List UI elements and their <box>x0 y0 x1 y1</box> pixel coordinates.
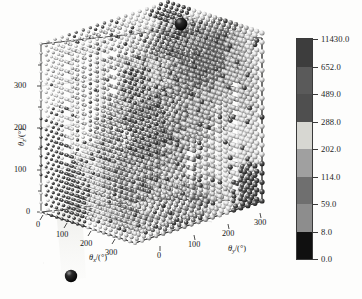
scatter-sphere <box>259 58 264 63</box>
scatter-sphere <box>172 81 176 85</box>
scatter-sphere <box>132 171 136 175</box>
scatter-sphere <box>135 135 139 139</box>
scatter-sphere <box>78 218 82 222</box>
scatter-sphere <box>159 16 163 20</box>
scatter-sphere <box>154 52 158 56</box>
scatter-sphere <box>139 159 143 163</box>
scatter-sphere <box>170 57 174 61</box>
scatter-sphere <box>217 194 222 199</box>
scatter-sphere <box>60 68 63 71</box>
scatter-sphere <box>129 16 133 20</box>
scatter-sphere <box>76 73 79 76</box>
scatter-sphere <box>161 138 165 142</box>
scatter-sphere <box>228 81 233 86</box>
scatter-sphere <box>111 43 115 47</box>
scatter-sphere <box>147 134 151 138</box>
scatter-sphere <box>102 35 106 39</box>
scatter-sphere <box>166 14 170 18</box>
scatter-sphere <box>210 131 215 136</box>
scatter-sphere <box>168 201 172 205</box>
scatter-sphere <box>168 127 172 131</box>
scatter-sphere <box>223 103 228 108</box>
scatter-sphere <box>97 159 101 163</box>
scatter-sphere <box>107 167 111 171</box>
scatter-sphere <box>118 50 122 54</box>
scatter-sphere <box>45 138 48 141</box>
scatter-sphere <box>119 213 123 217</box>
scatter-sphere <box>55 94 58 97</box>
scatter-sphere <box>123 70 127 74</box>
scatter-sphere <box>259 49 264 54</box>
scatter-sphere <box>223 187 228 192</box>
scatter-sphere <box>168 192 172 196</box>
scatter-sphere <box>175 180 179 184</box>
colorbar-band <box>297 94 312 122</box>
scatter-sphere <box>167 187 171 191</box>
scatter-sphere <box>168 131 172 135</box>
scatter-sphere <box>127 160 131 164</box>
scatter-sphere <box>205 120 210 125</box>
scatter-sphere <box>123 79 127 83</box>
scatter-sphere <box>101 142 105 146</box>
scatter-sphere <box>259 152 264 157</box>
scatter-sphere <box>154 66 158 70</box>
scatter-sphere <box>133 166 137 170</box>
scatter-sphere <box>128 57 132 61</box>
scatter-sphere <box>190 26 194 30</box>
scatter-sphere <box>137 74 141 78</box>
scatter-sphere <box>137 37 141 41</box>
scatter-sphere <box>50 214 53 217</box>
scatter-sphere <box>204 157 209 162</box>
scatter-sphere <box>71 90 74 93</box>
scatter-sphere <box>147 162 151 166</box>
scatter-sphere <box>154 206 158 210</box>
scatter-sphere <box>101 114 105 118</box>
scatter-sphere <box>182 196 187 201</box>
scatter-sphere <box>141 15 145 19</box>
scatter-sphere <box>154 173 158 177</box>
scatter-sphere <box>97 150 101 154</box>
scatter-sphere <box>139 47 143 51</box>
scatter-sphere <box>125 24 129 28</box>
scatter-sphere <box>125 131 129 135</box>
scatter-sphere <box>173 12 177 16</box>
scatter-sphere <box>156 71 160 75</box>
scatter-sphere <box>158 179 162 183</box>
scatter-sphere <box>76 120 79 123</box>
scatter-sphere <box>55 169 58 172</box>
scatter-sphere <box>47 59 50 62</box>
scatter-sphere <box>163 171 167 175</box>
scatter-sphere <box>196 164 201 169</box>
scatter-sphere <box>142 53 146 57</box>
scatter-sphere <box>57 53 60 56</box>
scatter-sphere <box>124 94 128 98</box>
scatter-sphere <box>55 188 58 191</box>
scatter-sphere <box>197 159 201 163</box>
scatter-sphere <box>163 69 167 73</box>
scatter-sphere <box>123 116 127 120</box>
scatter-sphere <box>83 38 86 41</box>
scatter-sphere <box>218 133 223 138</box>
scatter-sphere <box>94 28 97 31</box>
scatter-sphere <box>60 133 63 136</box>
scatter-sphere <box>117 96 121 100</box>
scatter-sphere <box>123 186 127 190</box>
scatter-sphere <box>76 129 79 132</box>
scatter-sphere <box>112 150 116 154</box>
scatter-sphere <box>95 103 99 107</box>
scatter-sphere <box>182 187 187 192</box>
scatter-sphere <box>178 13 182 17</box>
scatter-sphere <box>65 107 68 110</box>
scatter-sphere <box>147 208 151 212</box>
scatter-sphere <box>165 158 169 162</box>
scatter-sphere <box>99 43 103 47</box>
colorbar-tick-mark <box>313 67 318 68</box>
scatter-sphere <box>147 143 151 147</box>
scatter-sphere <box>94 107 98 111</box>
scatter-sphere <box>83 131 86 134</box>
scatter-sphere <box>154 75 158 79</box>
scatter-sphere <box>198 113 203 118</box>
scatter-sphere <box>75 31 78 34</box>
scatter-sphere <box>55 216 58 219</box>
scatter-sphere <box>79 158 82 161</box>
